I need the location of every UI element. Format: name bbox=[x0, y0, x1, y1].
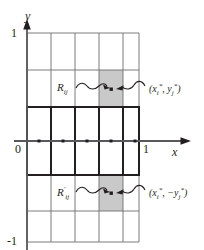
y-tick-minus1-label: -1 bbox=[7, 235, 17, 247]
upper-region-leader-line bbox=[76, 83, 110, 89]
lower-point-label: (xi*, −yj*) bbox=[149, 187, 187, 201]
sample-point-dot bbox=[86, 140, 89, 143]
sample-point-dot bbox=[62, 140, 65, 143]
upper-region-label-base: R bbox=[57, 81, 64, 93]
upper-point-y-sub: j bbox=[172, 89, 174, 97]
lower-point-y-sign: − bbox=[167, 187, 174, 198]
sample-point-dot bbox=[134, 140, 137, 143]
lower-region-label: R′ij bbox=[57, 186, 69, 201]
sample-point-dot bbox=[110, 140, 113, 143]
lower-region-leader-line bbox=[76, 187, 110, 193]
sample-point-dot bbox=[110, 192, 113, 195]
upper-point-label: (xi*, yj*) bbox=[149, 83, 181, 97]
upper-region-label-sub: ij bbox=[64, 88, 68, 96]
sample-point-dot bbox=[110, 88, 113, 91]
lower-point-close: ) bbox=[184, 187, 187, 198]
y-axis-label: y bbox=[25, 10, 30, 22]
lower-point-y-sub: j bbox=[178, 193, 180, 201]
upper-region-label: Rij bbox=[57, 82, 68, 96]
lower-region-label-sub: ij bbox=[65, 193, 69, 201]
figure-canvas: 1 -1 0 1 y x Rij R′ij (xi*, yj*) (xi*, −… bbox=[0, 0, 204, 250]
diagram-svg bbox=[0, 0, 204, 250]
x-axis bbox=[14, 137, 191, 145]
sample-point-dot bbox=[38, 140, 41, 143]
lower-region-label-prime: ′ bbox=[64, 185, 66, 193]
lower-point-x-sub: i bbox=[157, 193, 159, 201]
upper-point-close: ) bbox=[177, 83, 180, 94]
x-tick-1-label: 1 bbox=[143, 143, 149, 155]
x-tick-0-label: 0 bbox=[15, 143, 21, 155]
y-axis bbox=[23, 19, 31, 250]
x-axis-label: x bbox=[172, 146, 177, 158]
lower-region-label-base: R bbox=[57, 186, 64, 198]
y-tick-1-label: 1 bbox=[11, 27, 17, 39]
upper-point-x-sub: i bbox=[157, 89, 159, 97]
